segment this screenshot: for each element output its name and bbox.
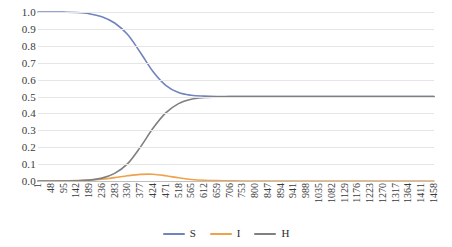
x-axis-tick-label: 1082	[327, 183, 337, 203]
x-axis-tick-label: 800	[250, 183, 260, 198]
x-axis-tick-label: 988	[301, 183, 311, 198]
gridline	[38, 97, 434, 98]
gridline	[38, 181, 434, 182]
x-axis-tick-label: 753	[237, 183, 247, 198]
gridline	[38, 63, 434, 64]
x-axis-tick-label: 565	[186, 183, 196, 198]
x-axis-tick-label: 659	[212, 183, 222, 198]
y-axis-tick-label: 0.1	[2, 159, 36, 169]
gridline	[38, 29, 434, 30]
x-axis-tick-label: 142	[71, 183, 81, 198]
x-axis-tick-label: 1270	[378, 183, 388, 203]
x-axis-tick-label: 283	[110, 183, 120, 198]
y-axis-tick-label: 0.5	[2, 92, 36, 102]
x-axis-tick-label: 471	[161, 183, 171, 198]
x-axis-tick-label: 847	[263, 183, 273, 198]
x-axis-tick-label: 706	[225, 183, 235, 198]
x-axis-tick-label: 612	[199, 183, 209, 198]
chart-legend: SIH	[0, 228, 452, 239]
legend-item-I[interactable]: I	[210, 228, 241, 239]
x-axis-tick-label: 1364	[403, 183, 413, 203]
x-axis-tick-label: 189	[84, 183, 94, 198]
x-axis-tick-label: 48	[46, 183, 56, 193]
gridline	[38, 164, 434, 165]
legend-line-swatch-icon	[254, 233, 276, 235]
x-axis-tick-label: 95	[59, 183, 69, 193]
x-axis-tick-label: 1458	[429, 183, 439, 203]
x-axis-tick-label: 941	[288, 183, 298, 198]
x-axis-tick-label: 330	[122, 183, 132, 198]
y-axis-tick-label: 0.8	[2, 41, 36, 51]
legend-item-S[interactable]: S	[163, 228, 196, 239]
x-axis-tick-label: 1129	[340, 183, 350, 203]
y-axis-tick-label: 1.0	[2, 7, 36, 17]
y-axis: 1.00.90.80.70.60.50.40.30.20.10.0	[0, 12, 36, 181]
line-chart: 1.00.90.80.70.60.50.40.30.20.10.0 148951…	[0, 0, 452, 247]
legend-line-swatch-icon	[163, 233, 185, 235]
x-axis-tick-label: 518	[174, 183, 184, 198]
y-axis-tick-label: 0.0	[2, 176, 36, 186]
gridline	[38, 147, 434, 148]
y-axis-tick-label: 0.9	[2, 24, 36, 34]
x-axis-tick-label: 377	[135, 183, 145, 198]
legend-item-H[interactable]: H	[254, 228, 289, 239]
gridline	[38, 113, 434, 114]
legend-line-swatch-icon	[210, 233, 232, 235]
x-axis-tick-label: 236	[97, 183, 107, 198]
legend-label: I	[237, 228, 241, 239]
plot-area	[38, 12, 434, 181]
x-axis-tick-label: 1411	[416, 183, 426, 203]
y-axis-tick-label: 0.2	[2, 142, 36, 152]
x-axis-tick-label: 424	[148, 183, 158, 198]
x-axis-tick-label: 1035	[314, 183, 324, 203]
gridline	[38, 12, 434, 13]
y-axis-tick-label: 0.7	[2, 58, 36, 68]
x-axis-tick-label: 1223	[365, 183, 375, 203]
gridline	[38, 46, 434, 47]
x-axis-tick-label: 1317	[391, 183, 401, 203]
y-axis-tick-label: 0.6	[2, 75, 36, 85]
x-axis: 1489514218923628333037742447151856561265…	[38, 183, 434, 229]
series-line-I	[38, 174, 434, 181]
legend-label: S	[190, 228, 196, 239]
series-line-S	[38, 12, 434, 97]
y-axis-tick-label: 0.3	[2, 125, 36, 135]
x-axis-tick-label: 1	[33, 183, 43, 188]
series-line-H	[38, 96, 434, 181]
gridline	[38, 130, 434, 131]
x-axis-tick-label: 894	[276, 183, 286, 198]
x-axis-tick-label: 1176	[352, 183, 362, 203]
y-axis-tick-label: 0.4	[2, 108, 36, 118]
gridline	[38, 80, 434, 81]
legend-label: H	[281, 228, 289, 239]
